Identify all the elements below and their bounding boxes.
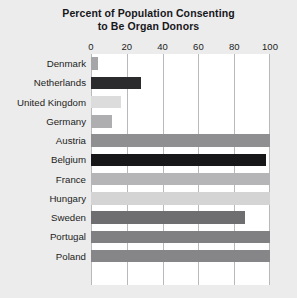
bar-row: United Kingdom bbox=[12, 93, 285, 112]
bar bbox=[91, 115, 112, 127]
bar bbox=[91, 77, 141, 89]
bar-row: Sweden bbox=[12, 208, 285, 227]
category-label: Hungary bbox=[49, 189, 86, 208]
bar-row: Poland bbox=[12, 247, 285, 266]
bar bbox=[91, 154, 266, 166]
bar-row: France bbox=[12, 170, 285, 189]
chart-title-line-2: to Be Organ Donors bbox=[0, 20, 297, 33]
bar-row: Denmark bbox=[12, 54, 285, 73]
x-axis-tick-labels: 020406080100 bbox=[91, 41, 270, 53]
bar-track bbox=[91, 227, 270, 246]
x-tick-label: 40 bbox=[157, 41, 168, 53]
category-label: Poland bbox=[56, 247, 86, 266]
bar-track bbox=[91, 189, 270, 208]
category-label: France bbox=[56, 170, 86, 189]
bar-track bbox=[91, 73, 270, 92]
chart-title: Percent of Population Consenting to Be O… bbox=[0, 7, 297, 33]
category-label: Germany bbox=[46, 112, 86, 131]
bar bbox=[91, 134, 270, 146]
bar-track bbox=[91, 54, 270, 73]
x-tick-label: 100 bbox=[262, 41, 278, 53]
bar-track bbox=[91, 208, 270, 227]
bar-track bbox=[91, 247, 270, 266]
category-label: Denmark bbox=[47, 54, 86, 73]
category-label: Netherlands bbox=[34, 73, 86, 92]
bar-row: Netherlands bbox=[12, 73, 285, 92]
bar-row: Germany bbox=[12, 112, 285, 131]
category-label: Portugal bbox=[50, 227, 86, 246]
plot-area: DenmarkNetherlandsUnited KingdomGermanyA… bbox=[12, 54, 285, 285]
bar bbox=[91, 231, 270, 243]
bar bbox=[91, 57, 98, 69]
category-label: Austria bbox=[56, 131, 86, 150]
x-tick-label: 0 bbox=[88, 41, 93, 53]
bar-row: Belgium bbox=[12, 150, 285, 169]
category-label: Belgium bbox=[51, 150, 86, 169]
bar-row: Hungary bbox=[12, 189, 285, 208]
x-tick-label: 20 bbox=[122, 41, 133, 53]
category-label: Sweden bbox=[51, 208, 86, 227]
bar bbox=[91, 250, 270, 262]
bar-track bbox=[91, 112, 270, 131]
bar-track bbox=[91, 131, 270, 150]
bar bbox=[91, 96, 121, 108]
chart-title-line-1: Percent of Population Consenting bbox=[0, 7, 297, 20]
bar bbox=[91, 173, 270, 185]
bar-rows: DenmarkNetherlandsUnited KingdomGermanyA… bbox=[12, 54, 285, 285]
x-tick-label: 80 bbox=[229, 41, 240, 53]
bar-track bbox=[91, 170, 270, 189]
organ-donor-bar-chart: Percent of Population Consenting to Be O… bbox=[0, 0, 297, 298]
x-tick-label: 60 bbox=[193, 41, 204, 53]
bar-row: Portugal bbox=[12, 227, 285, 246]
bar bbox=[91, 192, 270, 204]
bar-row: Austria bbox=[12, 131, 285, 150]
category-label: United Kingdom bbox=[17, 93, 86, 112]
bar bbox=[91, 211, 245, 223]
bar-track bbox=[91, 93, 270, 112]
bar-track bbox=[91, 150, 270, 169]
